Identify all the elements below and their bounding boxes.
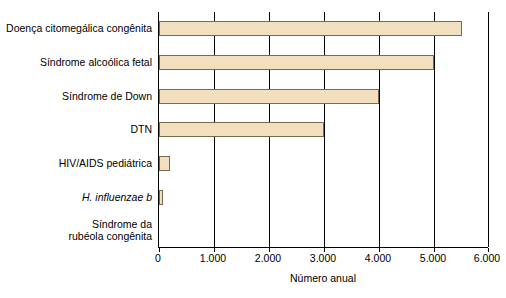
category-label-text: HIV/AIDS pediátrica <box>59 157 152 169</box>
bar-doenca-citomegalica-congenita <box>159 21 462 36</box>
bar-sindrome-de-down <box>159 89 379 104</box>
bar-row-2 <box>159 79 379 113</box>
xtick-label-1000: 1.000 <box>200 252 226 264</box>
bar-row-0 <box>159 12 462 46</box>
category-label-4: HIV/AIDS pediátrica <box>4 157 152 169</box>
plot-area <box>158 12 488 248</box>
category-label-text: Síndrome alcoólica fetal <box>40 56 152 68</box>
bar-row-4 <box>159 147 170 181</box>
category-label-3: DTN <box>4 123 152 135</box>
xtick-label-6000: 6.000 <box>474 252 500 264</box>
bar-hiv-aids-pediatrica <box>159 156 170 171</box>
bar-h-influenzae-b <box>159 190 163 205</box>
bar-dtn <box>159 122 324 137</box>
xtick-label-3000: 3.000 <box>310 252 336 264</box>
category-label-text-line1: Síndrome da <box>4 218 152 230</box>
xtick-label-2000: 2.000 <box>255 252 281 264</box>
category-label-text: Doença citomegálica congênita <box>6 22 152 34</box>
bar-row-3 <box>159 113 324 147</box>
bar-chart: Doença citomegálica congênita Síndrome a… <box>0 0 506 298</box>
bar-row-1 <box>159 46 434 80</box>
xaxis-title: Número anual <box>158 272 488 284</box>
category-label-6: Síndrome da rubéola congênita <box>4 218 152 242</box>
category-label-0: Doença citomegálica congênita <box>4 22 152 34</box>
xtick-label-0: 0 <box>155 252 161 264</box>
category-label-text: H. influenzae b <box>82 191 152 203</box>
xtick-label-5000: 5.000 <box>420 252 446 264</box>
category-label-text-line2: rubéola congênita <box>4 230 152 242</box>
bar-sindrome-alcoolica-fetal <box>159 55 434 70</box>
category-label-1: Síndrome alcoólica fetal <box>4 56 152 68</box>
xtick-label-4000: 4.000 <box>365 252 391 264</box>
category-label-2: Síndrome de Down <box>4 90 152 102</box>
category-label-5: H. influenzae b <box>4 191 152 203</box>
category-label-text: Síndrome de Down <box>62 90 152 102</box>
gridline-6000 <box>488 12 489 247</box>
category-label-text: DTN <box>130 123 152 135</box>
bar-row-5 <box>159 181 163 215</box>
gridline-5000 <box>434 12 435 247</box>
